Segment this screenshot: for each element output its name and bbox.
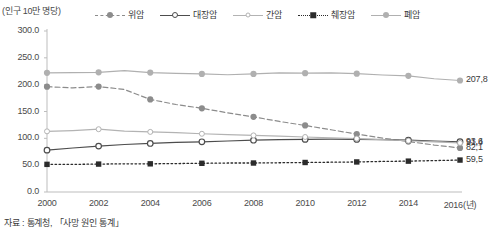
data-point <box>148 129 153 134</box>
x-tick-label: 2016(년) <box>433 198 487 211</box>
data-point <box>199 131 204 136</box>
data-point <box>199 139 205 145</box>
data-point <box>302 160 307 165</box>
data-point <box>96 83 102 89</box>
end-value-label-lung: 207,8 <box>466 74 488 84</box>
data-point <box>199 105 205 111</box>
data-point <box>96 161 101 166</box>
source-note: 자료 : 통계청, 「사망 원인 통계」 <box>4 216 124 229</box>
x-tick-label: 2008 <box>227 198 281 208</box>
x-tick-label: 2010 <box>278 198 332 208</box>
data-point <box>251 133 256 138</box>
x-tick-label: 2014 <box>381 198 435 208</box>
data-point <box>199 71 205 77</box>
data-point <box>96 127 101 132</box>
data-point <box>148 161 153 166</box>
y-tick-label: 0.0 <box>3 186 39 196</box>
data-point <box>354 159 359 164</box>
data-point <box>147 69 153 75</box>
y-tick-label: 200.0 <box>3 79 39 89</box>
data-point <box>96 69 102 75</box>
data-point <box>302 70 308 76</box>
y-tick-label: 150.0 <box>3 106 39 116</box>
data-point <box>302 122 308 128</box>
x-tick-label: 2012 <box>330 198 384 208</box>
series-markers-colorectal <box>44 137 463 153</box>
y-tick-label: 50.0 <box>3 159 39 169</box>
end-value-label-pancreatic: 59,5 <box>466 154 483 164</box>
data-point <box>147 141 153 147</box>
data-point <box>406 138 411 143</box>
data-point <box>44 84 50 90</box>
y-tick-label: 100.0 <box>3 132 39 142</box>
data-point <box>250 114 256 120</box>
axis-lines <box>47 29 462 192</box>
data-point <box>303 134 308 139</box>
data-point <box>406 158 411 163</box>
data-point <box>457 157 462 162</box>
data-point <box>96 143 102 149</box>
data-point <box>354 136 359 141</box>
data-point <box>199 161 204 166</box>
end-value-label-liver: 91,4 <box>466 137 483 147</box>
data-point <box>251 160 256 165</box>
y-tick-label: 250.0 <box>3 52 39 62</box>
x-tick-label: 2006 <box>175 198 229 208</box>
cancer-mortality-line-chart: (인구 10만 명당) 위암대장암간암췌장암폐암 0.050.0100.0150… <box>0 0 491 240</box>
x-tick-label: 2002 <box>72 198 126 208</box>
data-point <box>250 71 256 77</box>
data-point <box>44 70 50 76</box>
data-point <box>45 129 50 134</box>
data-point <box>405 73 411 79</box>
y-tick-label: 300.0 <box>3 25 39 35</box>
data-point <box>44 162 49 167</box>
x-tick-label: 2004 <box>123 198 177 208</box>
data-point <box>44 147 50 153</box>
x-tick-label: 2000 <box>20 198 74 208</box>
data-point <box>458 140 463 145</box>
data-point <box>457 77 463 83</box>
data-point <box>354 71 360 77</box>
data-point <box>147 96 153 102</box>
series-markers-pancreatic <box>44 157 462 167</box>
